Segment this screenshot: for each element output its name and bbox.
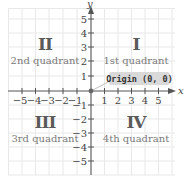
svg-text:5: 5 xyxy=(81,14,87,25)
y-axis-label: y xyxy=(86,0,93,9)
origin-callout-text: Origin (0, 0) xyxy=(106,74,173,84)
coordinate-plane: x y −5 −4 −3 −2 −1 1 2 3 4 5 5 4 3 2 1 −… xyxy=(0,0,185,180)
svg-text:4: 4 xyxy=(142,95,148,106)
quadrant-1-numeral: I xyxy=(133,34,141,54)
quadrant-4: IV 4th quadrant xyxy=(103,112,169,144)
x-axis-label: x xyxy=(178,85,184,96)
x-tick-labels: −5 −4 −3 −2 −1 1 2 3 4 5 xyxy=(13,95,162,106)
quadrant-1-label: 1st quadrant xyxy=(103,55,168,66)
quadrant-3-label: 3rd quadrant xyxy=(11,133,78,144)
quadrant-4-label: 4th quadrant xyxy=(103,133,169,144)
quadrant-2-numeral: II xyxy=(38,34,53,54)
svg-text:2: 2 xyxy=(81,56,87,67)
svg-text:−3: −3 xyxy=(40,95,55,106)
svg-text:−1: −1 xyxy=(72,100,87,111)
svg-text:−5: −5 xyxy=(13,95,28,106)
quadrant-2: II 2nd quadrant xyxy=(11,34,80,66)
svg-text:2: 2 xyxy=(115,95,121,106)
svg-text:1: 1 xyxy=(81,71,87,82)
quadrant-3-numeral: III xyxy=(35,112,57,132)
svg-text:1: 1 xyxy=(101,95,107,106)
svg-text:−5: −5 xyxy=(72,156,87,167)
origin-dot xyxy=(89,89,94,94)
quadrant-4-numeral: IV xyxy=(126,112,147,132)
quadrant-2-label: 2nd quadrant xyxy=(11,55,80,66)
svg-text:3: 3 xyxy=(128,95,134,106)
svg-text:4: 4 xyxy=(81,28,87,39)
svg-text:−2: −2 xyxy=(72,114,87,125)
svg-text:3: 3 xyxy=(81,42,87,53)
svg-text:5: 5 xyxy=(155,95,161,106)
